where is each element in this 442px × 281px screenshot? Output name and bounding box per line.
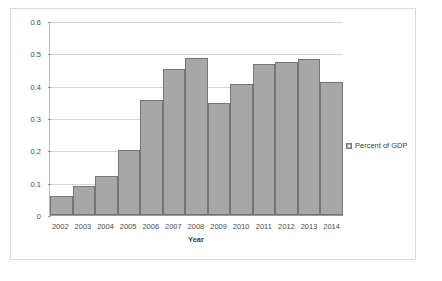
y-tick-label: 0.2	[31, 147, 41, 156]
x-tick-label: 2002	[49, 217, 72, 231]
bar[interactable]	[95, 176, 118, 215]
y-tick-label: 0	[37, 212, 41, 221]
legend-label: Percent of GDP	[355, 141, 408, 150]
x-tick-label: 2007	[162, 217, 185, 231]
bar[interactable]	[185, 58, 208, 215]
bar-slot	[185, 22, 208, 215]
x-tick-label: 2004	[94, 217, 117, 231]
x-tick-label: 2003	[72, 217, 95, 231]
y-tick-mark	[48, 216, 51, 217]
bar-slot	[163, 22, 186, 215]
x-axis: 2002200320042005200620072008200920102011…	[49, 217, 343, 231]
chart-frame: 00.10.20.30.40.50.6 20022003200420052006…	[10, 8, 416, 260]
y-tick-mark	[48, 54, 51, 55]
y-tick-mark	[48, 87, 51, 88]
bar[interactable]	[73, 186, 96, 215]
x-tick-label: 2005	[117, 217, 140, 231]
bar-slot	[230, 22, 253, 215]
bar-slot	[140, 22, 163, 215]
y-tick-mark	[48, 119, 51, 120]
x-tick-label: 2009	[207, 217, 230, 231]
x-tick-label: 2014	[320, 217, 343, 231]
y-tick-label: 0.6	[31, 18, 41, 27]
bar[interactable]	[50, 196, 73, 215]
plot-area	[49, 22, 343, 216]
y-tick-mark	[48, 22, 51, 23]
y-tick-label: 0.3	[31, 115, 41, 124]
bar-slot	[50, 22, 73, 215]
y-axis: 00.10.20.30.40.50.6	[11, 22, 45, 216]
bar-slot	[320, 22, 343, 215]
bar-slot	[275, 22, 298, 215]
y-tick-mark	[48, 151, 51, 152]
bar-series	[50, 22, 343, 215]
bar[interactable]	[230, 84, 253, 215]
legend-swatch-icon	[346, 143, 352, 149]
x-tick-label: 2012	[275, 217, 298, 231]
bar[interactable]	[140, 100, 163, 215]
bar-slot	[95, 22, 118, 215]
x-tick-label: 2006	[139, 217, 162, 231]
bar[interactable]	[163, 69, 186, 215]
bar-slot	[208, 22, 231, 215]
bar[interactable]	[208, 103, 231, 215]
bar[interactable]	[118, 150, 141, 215]
legend: Percent of GDP	[346, 141, 408, 150]
bar[interactable]	[298, 59, 321, 215]
bar-slot	[253, 22, 276, 215]
bar[interactable]	[320, 82, 343, 215]
x-tick-label: 2008	[185, 217, 208, 231]
bar[interactable]	[253, 64, 276, 215]
bar-slot	[298, 22, 321, 215]
y-tick-label: 0.1	[31, 179, 41, 188]
bar[interactable]	[275, 62, 298, 215]
y-tick-label: 0.4	[31, 82, 41, 91]
x-tick-label: 2010	[230, 217, 253, 231]
x-tick-label: 2011	[252, 217, 275, 231]
x-axis-title: Year	[49, 235, 343, 244]
y-tick-label: 0.5	[31, 50, 41, 59]
y-tick-mark	[48, 184, 51, 185]
bar-slot	[73, 22, 96, 215]
bar-slot	[118, 22, 141, 215]
x-tick-label: 2013	[298, 217, 321, 231]
